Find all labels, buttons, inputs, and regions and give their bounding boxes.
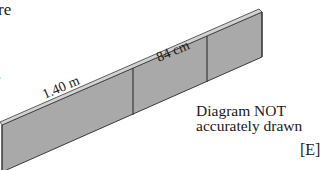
not-to-scale-note: Diagram NOT accurately drawn — [196, 103, 302, 133]
mark-label: [E] — [300, 142, 320, 158]
note-line-1: Diagram NOT — [196, 103, 302, 118]
cropped-question-mark: . — [0, 66, 1, 82]
cropped-question-text: re — [0, 2, 11, 18]
note-line-2: accurately drawn — [196, 118, 302, 133]
diagram-canvas: re . 1.40 m 84 cm Diagram NOT accurately… — [0, 0, 328, 170]
